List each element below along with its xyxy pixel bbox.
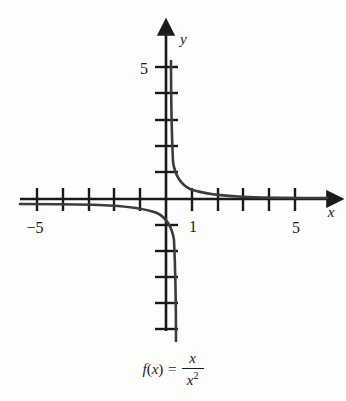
x-axis <box>20 188 328 211</box>
caption-denominator-exponent: 2 <box>193 370 198 381</box>
x-tick-label-1: 1 <box>189 218 197 235</box>
x-tick-label-5: 5 <box>292 219 300 236</box>
x-axis-label: x <box>327 204 335 220</box>
caption-denominator: x2 <box>182 370 204 389</box>
function-graph: 5 −5 1 5 y x <box>0 0 346 401</box>
x-tick-label-neg-5: −5 <box>26 219 43 236</box>
caption-close-paren: ) <box>158 361 163 377</box>
function-caption: f(x)=xx2 <box>0 352 346 389</box>
caption-fraction: xx2 <box>182 351 204 388</box>
y-axis-label: y <box>178 31 187 47</box>
caption-fraction-bar <box>182 368 204 369</box>
y-tick-label-5: 5 <box>140 60 148 77</box>
figure-container: 5 −5 1 5 y x f(x)=xx2 <box>0 0 346 401</box>
caption-numerator: x <box>182 351 204 367</box>
caption-equals: = <box>168 361 176 377</box>
curve-right-branch <box>171 61 327 198</box>
